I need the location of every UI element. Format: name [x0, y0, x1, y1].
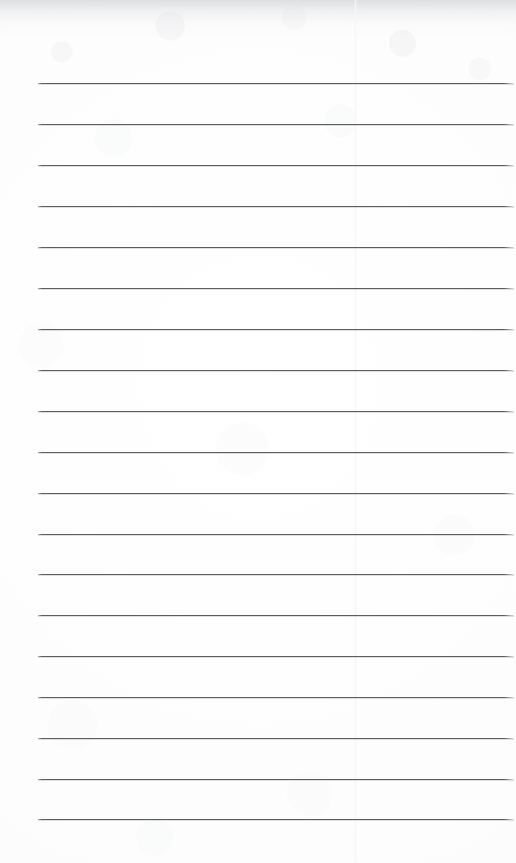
- notepad-page: [0, 0, 516, 863]
- writing-area[interactable]: [38, 60, 514, 843]
